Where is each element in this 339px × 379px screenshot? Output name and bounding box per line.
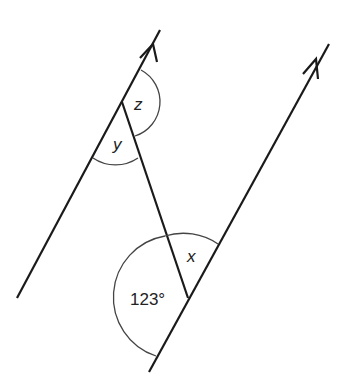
- label-123-degrees: 123°: [130, 290, 165, 309]
- label-x: x: [186, 247, 196, 266]
- angle-arc-x: [165, 233, 218, 244]
- right-parallel-line: [149, 44, 329, 372]
- label-y: y: [112, 135, 123, 154]
- angle-arc-y: [93, 158, 138, 165]
- left-parallel-line: [17, 30, 160, 298]
- diagram-canvas: z y x 123°: [0, 0, 339, 379]
- transversal-line: [122, 102, 188, 298]
- angle-diagram: z y x 123°: [0, 0, 339, 379]
- label-z: z: [133, 95, 143, 114]
